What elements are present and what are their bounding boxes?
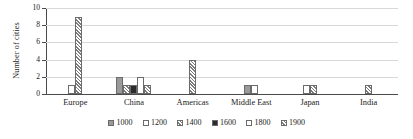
legend-swatch-icon xyxy=(212,120,218,126)
legend-label: 1600 xyxy=(220,118,236,127)
bar-group xyxy=(339,8,398,94)
bar xyxy=(144,85,151,94)
y-axis-title: Number of cities xyxy=(12,10,21,92)
x-axis-label: China xyxy=(105,98,164,107)
x-axis-label: Americas xyxy=(163,98,222,107)
legend-item[interactable]: 1200 xyxy=(143,118,168,127)
legend-label: 1900 xyxy=(289,118,305,127)
bar xyxy=(365,85,372,94)
chart-legend: 100012001400160018001900 xyxy=(0,118,413,127)
bar xyxy=(189,60,196,94)
bar xyxy=(123,85,130,94)
bar xyxy=(116,77,123,94)
bar-group xyxy=(281,8,340,94)
bar xyxy=(68,85,75,94)
bar-group-bars xyxy=(365,8,372,94)
legend-item[interactable]: 1800 xyxy=(246,118,271,127)
legend-swatch-icon xyxy=(177,120,183,126)
y-axis-tick-label: 2 xyxy=(36,73,40,81)
bar xyxy=(130,85,137,94)
x-axis-label: Middle East xyxy=(222,98,281,107)
y-axis-tick-label: 8 xyxy=(36,21,40,29)
legend-label: 1000 xyxy=(117,118,133,127)
legend-swatch-icon xyxy=(108,120,114,126)
bar-group-bars xyxy=(303,8,317,94)
y-axis-tick-label: 10 xyxy=(32,4,40,12)
bar-group-bars xyxy=(189,8,196,94)
bar-group-bars xyxy=(116,8,151,94)
legend-swatch-icon xyxy=(143,120,149,126)
legend-label: 1200 xyxy=(151,118,167,127)
legend-item[interactable]: 1000 xyxy=(108,118,133,127)
bar xyxy=(251,85,258,94)
legend-label: 1400 xyxy=(186,118,202,127)
bar xyxy=(303,85,310,94)
y-axis-tick-label: 6 xyxy=(36,38,40,46)
bar-group xyxy=(105,8,164,94)
legend-swatch-icon xyxy=(246,120,252,126)
legend-swatch-icon xyxy=(281,120,287,126)
y-axis-tick-label: 0 xyxy=(36,90,40,98)
bar-group xyxy=(46,8,105,94)
plot-area: 0246810 xyxy=(46,8,398,94)
x-axis-label: India xyxy=(339,98,398,107)
bar xyxy=(244,85,251,94)
bar-chart: Number of cities 0246810 EuropeChinaAmer… xyxy=(0,0,413,139)
y-axis-tick-label: 4 xyxy=(36,56,40,64)
bar-group-bars xyxy=(244,8,258,94)
legend-item[interactable]: 1400 xyxy=(177,118,202,127)
y-axis-tick xyxy=(42,94,46,95)
legend-item[interactable]: 1600 xyxy=(212,118,237,127)
bar xyxy=(137,77,144,94)
bar-group xyxy=(222,8,281,94)
x-axis-label: Japan xyxy=(281,98,340,107)
legend-item[interactable]: 1900 xyxy=(281,118,306,127)
x-axis-line xyxy=(46,94,398,95)
bar xyxy=(75,17,82,94)
x-axis-label: Europe xyxy=(46,98,105,107)
bar-group-bars xyxy=(68,8,82,94)
bar-group xyxy=(163,8,222,94)
bar xyxy=(310,85,317,94)
legend-label: 1800 xyxy=(255,118,271,127)
